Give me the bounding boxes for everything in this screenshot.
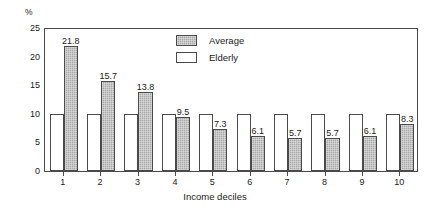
x-axis-tick-mark xyxy=(287,172,288,176)
y-axis-tick-label: 5 xyxy=(0,138,40,147)
bar-value-label: 8.3 xyxy=(401,114,414,124)
x-axis-tick-label: 2 xyxy=(80,177,120,188)
bar-average[interactable]: 5.7 xyxy=(288,138,302,171)
bar-elderly[interactable] xyxy=(50,114,64,171)
x-axis-tick-label: 9 xyxy=(342,177,382,188)
bar-value-label: 21.8 xyxy=(62,36,80,46)
y-axis-tick-label: 0 xyxy=(0,167,40,176)
x-axis-tick-label: 1 xyxy=(43,177,83,188)
bar-value-label: 5.7 xyxy=(326,128,339,138)
bar-average[interactable]: 8.3 xyxy=(400,124,414,171)
bar-value-label: 5.7 xyxy=(289,128,302,138)
bar-elderly[interactable] xyxy=(87,114,101,171)
bar-group: 8.3 xyxy=(386,28,414,171)
y-axis-tick-label: 20 xyxy=(0,52,40,61)
bar-value-label: 6.1 xyxy=(364,126,377,136)
chart-legend: Average Elderly xyxy=(176,32,306,66)
x-axis-tick-label: 4 xyxy=(155,177,195,188)
bar-group: 6.1 xyxy=(349,28,377,171)
bar-value-label: 13.8 xyxy=(137,82,155,92)
x-axis-tick-mark xyxy=(250,172,251,176)
bar-average[interactable]: 7.3 xyxy=(213,129,227,171)
bar-value-label: 7.3 xyxy=(214,119,227,129)
bar-group: 15.7 xyxy=(87,28,115,171)
x-axis-tick-mark xyxy=(212,172,213,176)
legend-swatch-average-icon xyxy=(176,35,197,46)
x-axis-tick-label: 10 xyxy=(379,177,419,188)
x-axis-tick-mark xyxy=(63,172,64,176)
bar-average[interactable]: 15.7 xyxy=(101,81,115,171)
x-axis-title: Income deciles xyxy=(0,191,430,202)
y-axis-tick-label: 15 xyxy=(0,81,40,90)
bar-average[interactable]: 5.7 xyxy=(325,138,339,171)
legend-label-average: Average xyxy=(209,35,244,46)
bar-group: 13.8 xyxy=(124,28,152,171)
x-axis-tick-mark xyxy=(325,172,326,176)
bar-average[interactable]: 13.8 xyxy=(138,92,152,171)
x-axis-tick-mark xyxy=(175,172,176,176)
bar-average[interactable]: 6.1 xyxy=(363,136,377,171)
bar-elderly[interactable] xyxy=(349,114,363,171)
bar-elderly[interactable] xyxy=(311,114,325,171)
bar-value-label: 15.7 xyxy=(99,71,117,81)
y-axis-tick-label: 10 xyxy=(0,109,40,118)
bar-elderly[interactable] xyxy=(274,114,288,171)
bar-value-label: 9.5 xyxy=(177,107,190,117)
x-axis-tick-label: 8 xyxy=(305,177,345,188)
y-axis-tick-label: 25 xyxy=(0,24,40,33)
bar-elderly[interactable] xyxy=(386,114,400,171)
x-axis-tick-label: 6 xyxy=(230,177,270,188)
x-axis-tick-label: 5 xyxy=(192,177,232,188)
x-axis-tick-mark xyxy=(138,172,139,176)
x-axis-tick-label: 3 xyxy=(118,177,158,188)
bar-group: 5.7 xyxy=(311,28,339,171)
y-axis-unit-label: % xyxy=(25,8,33,17)
legend-swatch-elderly-icon xyxy=(176,52,197,63)
bar-group: 21.8 xyxy=(50,28,78,171)
chart-figure: % 0510152025 21.815.713.89.57.36.15.75.7… xyxy=(0,0,430,212)
x-axis-tick-mark xyxy=(399,172,400,176)
bar-elderly[interactable] xyxy=(124,114,138,171)
legend-item-elderly[interactable]: Elderly xyxy=(176,49,306,66)
bar-elderly[interactable] xyxy=(162,114,176,171)
legend-item-average[interactable]: Average xyxy=(176,32,306,49)
bar-value-label: 6.1 xyxy=(252,126,265,136)
bar-average[interactable]: 9.5 xyxy=(176,117,190,171)
bar-elderly[interactable] xyxy=(237,114,251,171)
bar-elderly[interactable] xyxy=(199,114,213,171)
bar-average[interactable]: 6.1 xyxy=(251,136,265,171)
legend-label-elderly: Elderly xyxy=(209,52,238,63)
bar-average[interactable]: 21.8 xyxy=(64,46,78,171)
x-axis-tick-mark xyxy=(100,172,101,176)
x-axis-tick-label: 7 xyxy=(267,177,307,188)
x-axis-tick-mark xyxy=(362,172,363,176)
